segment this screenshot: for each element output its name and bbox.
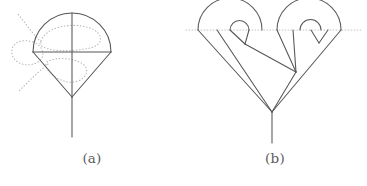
figure-panel-b: (b) — [183, 0, 367, 186]
dotted-upper-tail — [18, 14, 41, 42]
right-outer-arc — [277, 0, 341, 30]
dotted-lower-tail — [18, 64, 48, 92]
panel-a-caption: (a) — [0, 148, 184, 168]
dotted-curve-group-a — [12, 14, 101, 92]
branch-left-inner-stem — [245, 44, 296, 72]
dotted-lower-loop — [46, 59, 87, 83]
branch-leftmost — [198, 30, 272, 112]
solid-figure-group-a — [33, 13, 111, 137]
branch-left-inner-right — [245, 30, 249, 44]
branch-right-pair-left — [311, 30, 319, 43]
branch-left-inner-left — [230, 30, 245, 44]
left-inner-arc — [230, 21, 249, 30]
cone-right-edge — [72, 52, 111, 97]
left-outer-arc — [198, 0, 262, 30]
dotted-upper-loop — [40, 25, 101, 50]
dotted-left-loop — [12, 41, 43, 65]
panel-b-caption: (b) — [183, 148, 367, 168]
panel-a-drawing — [0, 0, 184, 150]
arc-group-b — [198, 0, 341, 30]
tree-branch-group-b — [198, 30, 341, 143]
panel-b-drawing — [183, 0, 367, 150]
right-inner-arc — [300, 20, 321, 31]
branch-right-pair-right — [319, 30, 328, 43]
branch-right-stem — [272, 72, 296, 112]
figure-root: (a) — [0, 0, 367, 186]
branch-left-second — [217, 30, 272, 112]
figure-panel-a: (a) — [0, 0, 184, 186]
